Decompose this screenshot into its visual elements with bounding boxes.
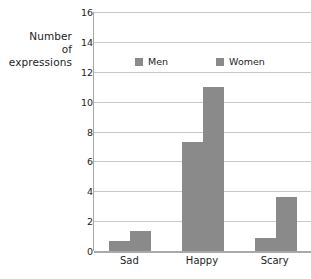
x-axis-tick-labels: SadHappyScary (93, 255, 311, 273)
legend-swatch-icon (216, 58, 224, 66)
bar-happy-women (203, 87, 224, 251)
y-axis-tick-label: 16 (63, 7, 93, 18)
y-axis-tick-label: 6 (63, 156, 93, 167)
x-axis-tick-label: Happy (186, 255, 218, 266)
legend-label: Men (148, 56, 168, 67)
chart-legend: MenWomen (135, 56, 265, 67)
gridline (94, 12, 311, 13)
y-axis-tick-label: 12 (63, 66, 93, 77)
x-axis-tick-label: Scary (261, 255, 289, 266)
y-axis-tick-label: 2 (63, 216, 93, 227)
legend-item-women: Women (216, 56, 265, 67)
bar-sad-men (109, 241, 130, 251)
y-axis-tick-label: 14 (63, 36, 93, 47)
gridline (94, 42, 311, 43)
legend-label: Women (229, 56, 265, 67)
plot-area (93, 12, 311, 251)
bar-scary-men (255, 238, 276, 251)
gridline (94, 72, 311, 73)
chart-screenshot: Number of expressions 0246810121416 MenW… (0, 0, 311, 279)
y-axis-tick-label: 4 (63, 186, 93, 197)
axis-baseline (94, 251, 311, 253)
legend-swatch-icon (135, 58, 143, 66)
y-axis-tick-labels: 0246810121416 (59, 12, 93, 251)
y-axis-tick-label: 10 (63, 96, 93, 107)
bar-happy-men (182, 142, 203, 251)
legend-item-men: Men (135, 56, 168, 67)
bar-sad-women (130, 231, 151, 251)
y-axis-tick-label: 0 (63, 246, 93, 257)
y-axis-tick-label: 8 (63, 126, 93, 137)
bar-scary-women (276, 197, 297, 251)
x-axis-tick-label: Sad (120, 255, 139, 266)
